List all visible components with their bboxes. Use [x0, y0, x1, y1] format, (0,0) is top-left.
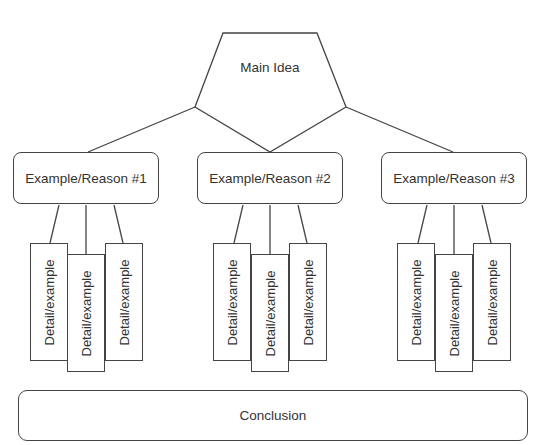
detail-label: Detail/example [263, 270, 278, 356]
main-idea-pentagon [195, 33, 346, 152]
detail-label: Detail/example [409, 259, 424, 345]
detail-box-1-2: Detail/example [67, 254, 105, 372]
detail-box-1-3: Detail/example [105, 243, 143, 361]
detail-box-2-3: Detail/example [289, 243, 327, 361]
reason-box-1: Example/Reason #1 [13, 152, 159, 204]
detail-label: Detail/example [485, 259, 500, 345]
detail-box-2-1: Detail/example [213, 243, 251, 361]
detail-box-3-2: Detail/example [435, 254, 473, 372]
detail-label: Detail/example [42, 259, 57, 345]
detail-label: Detail/example [301, 259, 316, 345]
detail-box-1-1: Detail/example [30, 243, 68, 361]
detail-label: Detail/example [79, 270, 94, 356]
main-idea-label: Main Idea [223, 60, 317, 75]
reason-box-2: Example/Reason #2 [197, 152, 343, 204]
conclusion-box: Conclusion [18, 390, 528, 441]
detail-label: Detail/example [225, 259, 240, 345]
reason-box-3: Example/Reason #3 [381, 152, 527, 204]
detail-label: Detail/example [447, 270, 462, 356]
detail-box-3-1: Detail/example [397, 243, 435, 361]
detail-label: Detail/example [117, 259, 132, 345]
detail-box-3-3: Detail/example [473, 243, 511, 361]
detail-box-2-2: Detail/example [251, 254, 289, 372]
